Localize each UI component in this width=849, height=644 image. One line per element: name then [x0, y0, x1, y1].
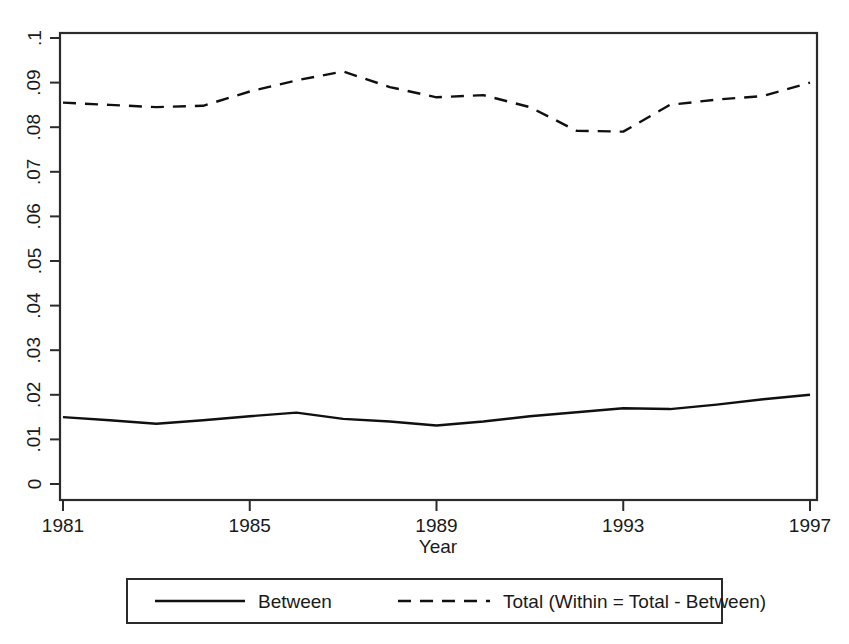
- y-tick-label: .1: [24, 30, 45, 46]
- chart-legend: Between Total (Within = Total - Between): [127, 579, 766, 623]
- y-tick-label: .03: [24, 337, 45, 363]
- y-tick-label: .02: [24, 382, 45, 408]
- y-tick-label: .07: [24, 159, 45, 185]
- x-axis: 19811985198919931997: [42, 500, 831, 536]
- series-line-between: [63, 395, 810, 426]
- x-tick-label: 1997: [789, 515, 831, 536]
- chart-figure: 0.01.02.03.04.05.06.07.08.09.1 198119851…: [0, 0, 849, 644]
- line-chart: 0.01.02.03.04.05.06.07.08.09.1 198119851…: [0, 0, 849, 644]
- y-tick-label: .01: [24, 426, 45, 452]
- y-tick-label: .05: [24, 248, 45, 274]
- y-axis: 0.01.02.03.04.05.06.07.08.09.1: [24, 30, 61, 489]
- x-axis-title: Year: [419, 536, 458, 557]
- y-tick-label: .04: [24, 292, 45, 319]
- x-tick-label: 1993: [602, 515, 644, 536]
- y-tick-label: 0: [24, 479, 45, 490]
- series-line-total: [63, 71, 810, 131]
- y-tick-label: .09: [24, 69, 45, 95]
- x-tick-label: 1989: [415, 515, 457, 536]
- series-group: [63, 71, 810, 425]
- legend-label-between: Between: [258, 591, 332, 612]
- legend-label-total: Total (Within = Total - Between): [503, 591, 766, 612]
- x-tick-label: 1985: [229, 515, 271, 536]
- x-tick-label: 1981: [42, 515, 84, 536]
- y-tick-label: .06: [24, 203, 45, 229]
- plot-frame: [60, 33, 817, 500]
- y-tick-label: .08: [24, 114, 45, 140]
